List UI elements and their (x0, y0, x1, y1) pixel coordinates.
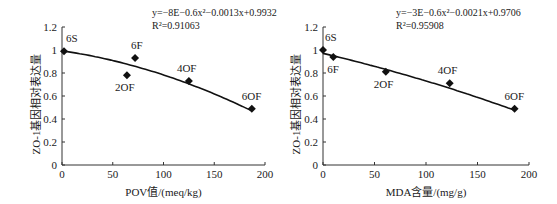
y-tick-label: 1 (52, 44, 58, 56)
y-tick-label: 0.4 (43, 113, 57, 125)
y-tick-label: 0.6 (43, 90, 57, 102)
y-tick-label: 0.6 (304, 90, 318, 102)
point-label: 6S (325, 31, 337, 43)
x-axis-title: POV值/(meq/kg) (125, 186, 202, 199)
data-point-diamond-icon (123, 71, 131, 79)
chart-mda-vs-zo1: 00.20.40.60.811.2050100150200MDA含量/(mg/g… (289, 7, 538, 199)
chart-figure: 00.20.40.60.811.2050100150200POV值/(meq/k… (0, 0, 557, 204)
point-label: 4OF (177, 62, 197, 74)
point-label: 6OF (242, 90, 262, 102)
data-point-diamond-icon (248, 105, 256, 113)
chart-pov-vs-zo1: 00.20.40.60.811.2050100150200POV值/(meq/k… (29, 7, 277, 199)
data-point-diamond-icon (60, 47, 68, 55)
x-tick-label: 0 (59, 168, 65, 180)
data-point-diamond-icon (329, 53, 337, 61)
trendline (64, 51, 252, 111)
r-squared-label: R²=0.91063 (152, 20, 200, 31)
y-tick-label: 0.4 (304, 113, 318, 125)
point-label: 6F (327, 63, 339, 75)
y-tick-label: 1 (313, 44, 319, 56)
y-tick-label: 0.8 (304, 67, 318, 79)
point-label: 4OF (438, 64, 458, 76)
data-point-diamond-icon (131, 54, 139, 62)
point-label: 2OF (115, 81, 135, 93)
y-tick-label: 0.2 (304, 136, 318, 148)
y-tick-label: 0 (313, 159, 319, 171)
y-tick-label: 0.2 (43, 136, 57, 148)
point-label: 2OF (374, 78, 394, 90)
x-tick-label: 100 (418, 168, 435, 180)
x-tick-label: 50 (369, 168, 381, 180)
data-point-diamond-icon (446, 79, 454, 87)
x-axis-title: MDA含量/(mg/g) (386, 185, 467, 199)
y-tick-label: 1.2 (43, 21, 57, 33)
trendline (323, 53, 515, 110)
x-tick-label: 150 (469, 168, 486, 180)
y-tick-label: 0 (52, 159, 58, 171)
x-tick-label: 100 (155, 168, 172, 180)
point-label: 6S (66, 32, 78, 44)
y-tick-label: 1.2 (304, 21, 318, 33)
point-label: 6OF (505, 90, 525, 102)
data-point-diamond-icon (185, 77, 193, 85)
y-tick-label: 0.8 (43, 67, 57, 79)
trendline-equation: y=−3E−0.6x²−0.0021x+0.9706 (396, 7, 521, 18)
y-axis-title: ZO-1基因相对表达量 (289, 54, 302, 155)
x-tick-label: 200 (257, 168, 274, 180)
point-label: 6F (131, 39, 143, 51)
data-point-diamond-icon (511, 105, 519, 113)
x-tick-label: 200 (521, 168, 538, 180)
x-tick-label: 0 (320, 168, 326, 180)
y-axis-title: ZO-1基因相对表达量 (29, 54, 42, 155)
data-point-diamond-icon (319, 46, 327, 54)
trendline-equation: y=−8E−0.6x²−0.0013x+0.9932 (152, 7, 277, 18)
x-tick-label: 150 (206, 168, 223, 180)
r-squared-label: R²=0.95908 (396, 20, 444, 31)
x-tick-label: 50 (107, 168, 119, 180)
